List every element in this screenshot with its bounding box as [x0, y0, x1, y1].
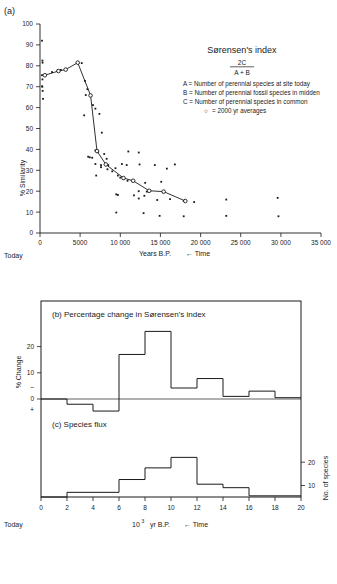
average-marker — [131, 179, 135, 183]
average-marker — [89, 94, 93, 98]
scatter-point — [138, 190, 140, 192]
scatter-point — [95, 175, 97, 177]
scatter-point — [95, 163, 97, 165]
scatter-point — [154, 164, 156, 166]
scatter-point — [85, 94, 87, 96]
svg-text:5000: 5000 — [73, 239, 88, 246]
scatter-point — [115, 193, 117, 195]
scatter-point — [83, 114, 85, 116]
scatter-point — [119, 177, 121, 179]
panel-b-title: (b) Percentage change in Sørensen's inde… — [52, 310, 206, 319]
scatter-point — [42, 90, 44, 92]
svg-text:0: 0 — [30, 395, 34, 402]
scatter-point — [139, 164, 141, 166]
panel-a: (a) 100 90 80 70 60 50 40 30 20 10 0 0 5… — [4, 6, 331, 260]
panel-c-xticks: 0 2 4 6 8 10 12 14 16 18 20 — [39, 497, 305, 511]
scatter-point — [103, 153, 105, 155]
scatter-point — [107, 168, 109, 170]
scatter-point — [133, 194, 135, 196]
scatter-point — [278, 215, 280, 217]
svg-text:40: 40 — [26, 146, 34, 153]
scatter-point — [41, 40, 43, 42]
svg-text:10 000: 10 000 — [110, 239, 130, 246]
panel-a-xticks: 0 5000 10 000 15 000 20 000 25 000 30 00… — [38, 233, 331, 246]
scatter-point — [42, 98, 44, 100]
figure-svg: (a) 100 90 80 70 60 50 40 30 20 10 0 0 5… — [0, 0, 337, 584]
svg-text:18: 18 — [271, 504, 279, 511]
svg-text:20: 20 — [27, 343, 35, 350]
scatter-point — [166, 168, 168, 170]
panel-b-sign-minus: − — [30, 384, 34, 391]
scatter-point — [159, 215, 161, 217]
scatter-point — [111, 170, 113, 172]
panel-a-yticks: 100 90 80 70 60 50 40 30 20 10 0 — [22, 20, 40, 236]
legend-marker-note: = 2000 yr averages — [212, 107, 266, 115]
scatter-point — [115, 212, 117, 214]
svg-text:20 000: 20 000 — [191, 239, 211, 246]
average-marker — [104, 163, 108, 167]
svg-text:20: 20 — [308, 459, 316, 466]
panel-a-label: (a) — [4, 6, 15, 16]
average-marker — [64, 68, 68, 72]
scatter-point — [127, 151, 129, 153]
svg-text:6: 6 — [117, 504, 121, 511]
svg-text:100: 100 — [22, 20, 33, 27]
scatter-point — [156, 199, 158, 201]
svg-text:8: 8 — [143, 504, 147, 511]
svg-text:2: 2 — [65, 504, 69, 511]
legend-title: Sørensen's index — [207, 45, 277, 55]
scatter-point — [225, 215, 227, 217]
scatter-point — [99, 113, 101, 115]
svg-text:20: 20 — [297, 504, 305, 511]
scatter-point — [138, 152, 140, 154]
panel-a-ylabel: % Similarity — [19, 159, 27, 196]
panel-c-time-arrow-label: ← Time — [184, 521, 208, 528]
panel-c: (c) Species flux 10 20 No. of species 0 … — [4, 420, 330, 529]
legend-block: Sørensen's index 2C A + B A = Number of … — [183, 45, 320, 115]
legend-line-a: A = Number of perennial species at site … — [183, 80, 311, 88]
scatter-point — [117, 194, 119, 196]
panel-c-step-series — [41, 457, 301, 497]
svg-text:10: 10 — [26, 209, 34, 216]
legend-line-b: B = Number of perennial fossil species i… — [183, 89, 320, 97]
scatter-point — [193, 201, 195, 203]
svg-text:12: 12 — [193, 504, 201, 511]
scatter-point — [117, 175, 119, 177]
legend-formula-denominator: A + B — [234, 69, 250, 76]
svg-text:35 000: 35 000 — [311, 239, 331, 246]
svg-text:14: 14 — [219, 504, 227, 511]
scatter-point — [121, 163, 123, 165]
scatter-point — [41, 86, 43, 88]
scatter-point — [87, 156, 89, 158]
scatter-point — [42, 60, 44, 62]
svg-text:0: 0 — [29, 229, 33, 236]
figure-root: (a) 100 90 80 70 60 50 40 30 20 10 0 0 5… — [0, 0, 337, 584]
scatter-point — [174, 164, 176, 166]
scatter-point — [91, 157, 93, 159]
svg-text:90: 90 — [26, 41, 34, 48]
panel-a-average-line — [45, 63, 186, 201]
panel-c-xlabel-exponent: 3 — [142, 518, 145, 524]
scatter-point — [127, 180, 129, 182]
svg-text:10: 10 — [27, 369, 35, 376]
panel-b-sign-plus: + — [30, 406, 34, 413]
svg-text:10: 10 — [167, 504, 175, 511]
scatter-point — [100, 164, 102, 166]
scatter-point — [106, 158, 108, 160]
scatter-point — [100, 166, 102, 168]
scatter-point — [138, 198, 140, 200]
scatter-point — [42, 78, 44, 80]
scatter-point — [225, 199, 227, 201]
svg-text:0: 0 — [39, 504, 43, 511]
scatter-point — [95, 108, 97, 110]
svg-text:60: 60 — [26, 104, 34, 111]
svg-text:50: 50 — [26, 125, 34, 132]
scatter-point — [101, 132, 103, 134]
scatter-point — [277, 197, 279, 199]
svg-text:20: 20 — [26, 188, 34, 195]
scatter-point — [144, 182, 146, 184]
svg-text:0: 0 — [38, 239, 42, 246]
panel-c-xlabel-base: 10 — [132, 521, 140, 528]
panel-c-title: (c) Species flux — [52, 420, 107, 429]
scatter-point — [115, 167, 117, 169]
